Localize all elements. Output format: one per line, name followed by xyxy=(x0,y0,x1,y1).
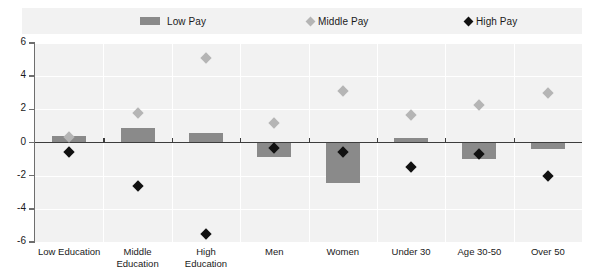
x-axis-tick xyxy=(309,138,310,143)
x-axis-label: Over 50 xyxy=(508,246,588,258)
y-axis-label: -4 xyxy=(0,202,26,213)
y-axis-label: -2 xyxy=(0,169,26,180)
y-axis-tick xyxy=(29,241,35,242)
legend-label-high-pay: High Pay xyxy=(476,16,517,27)
x-axis-tick xyxy=(514,138,515,143)
bar-low-pay xyxy=(121,128,155,142)
x-axis-tick xyxy=(377,138,378,143)
legend-label-low-pay: Low Pay xyxy=(167,16,206,27)
marker-high-pay xyxy=(64,147,75,158)
y-axis-tick xyxy=(29,142,35,143)
high-pay-diamond-icon xyxy=(464,16,474,26)
legend-item-high-pay: High Pay xyxy=(465,8,517,34)
y-axis-tick xyxy=(29,42,35,43)
x-axis-tick xyxy=(172,138,173,143)
legend-item-middle-pay: Middle Pay xyxy=(307,8,368,34)
chart-container: Low Pay Middle Pay High Pay 6420-2-4-6 L… xyxy=(0,0,599,273)
marker-middle-pay xyxy=(337,85,348,96)
marker-middle-pay xyxy=(200,52,211,63)
gridline-horizontal xyxy=(35,242,582,243)
legend-item-low-pay: Low Pay xyxy=(140,8,206,34)
bar-low-pay xyxy=(531,143,565,150)
marker-high-pay xyxy=(200,228,211,239)
y-axis-label: 2 xyxy=(0,102,26,113)
x-axis-tick xyxy=(103,138,104,143)
middle-pay-diamond-icon xyxy=(306,16,316,26)
marker-high-pay xyxy=(405,161,416,172)
bar-low-pay xyxy=(394,138,428,143)
y-axis-tick xyxy=(29,208,35,209)
low-pay-swatch-icon xyxy=(140,17,160,25)
y-axis-label: -6 xyxy=(0,235,26,246)
marker-middle-pay xyxy=(269,117,280,128)
marker-middle-pay xyxy=(405,109,416,120)
marker-middle-pay xyxy=(542,87,553,98)
marker-high-pay xyxy=(132,180,143,191)
y-axis-label: 6 xyxy=(0,36,26,47)
y-axis-tick xyxy=(29,109,35,110)
y-axis-tick xyxy=(29,175,35,176)
y-axis-label: 4 xyxy=(0,69,26,80)
plot-area xyxy=(35,43,582,242)
x-axis-tick xyxy=(445,138,446,143)
marker-high-pay xyxy=(542,171,553,182)
legend-label-middle-pay: Middle Pay xyxy=(318,16,368,27)
y-axis-label: 0 xyxy=(0,136,26,147)
chart-legend: Low Pay Middle Pay High Pay xyxy=(22,8,582,34)
bar-low-pay xyxy=(189,133,223,143)
x-axis-tick xyxy=(240,138,241,143)
y-axis-tick xyxy=(29,75,35,76)
